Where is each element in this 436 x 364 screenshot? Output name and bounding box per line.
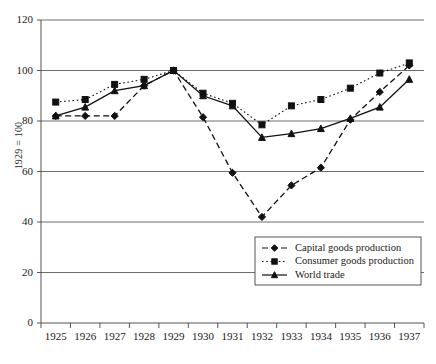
data-point-triangle [82,104,89,111]
x-tick-label: 1928 [133,330,156,342]
x-tick-label: 1935 [339,330,362,342]
chart-legend: Capital goods productionConsumer goods p… [255,237,421,285]
x-tick-label: 1930 [192,330,215,342]
series-1 [52,62,413,221]
x-tick-label: 1937 [398,330,421,342]
legend-label: Consumer goods production [295,255,415,266]
x-tick-label: 1936 [369,330,392,342]
y-tick-label: 80 [22,114,34,126]
series-3 [52,67,412,141]
y-tick-label: 100 [17,64,34,76]
data-point-square [347,85,353,91]
data-point-square [53,99,59,105]
y-tick-label: 20 [22,266,34,278]
data-point-diamond [229,169,236,176]
legend-label: World trade [295,269,345,280]
x-tick-label: 1934 [310,330,333,342]
data-point-square [288,103,294,109]
x-tick-label: 1927 [104,330,127,342]
data-point-square [259,122,265,128]
data-point-diamond [82,112,89,119]
legend-label: Capital goods production [295,242,402,253]
y-tick-label: 120 [17,13,34,25]
chart-figure: 1929 = 100 02040608010012019251926192719… [0,0,436,364]
x-tick-label: 1929 [163,330,186,342]
data-point-square [318,97,324,103]
data-point-square [272,259,277,264]
chart-canvas: 0204060801001201925192619271928192919301… [0,0,436,364]
x-tick-label: 1925 [45,330,68,342]
x-tick-label: 1931 [222,330,244,342]
data-point-square [377,70,383,76]
x-tick-label: 1933 [280,330,303,342]
x-tick-label: 1932 [251,330,273,342]
y-tick-label: 40 [22,215,34,227]
data-point-square [406,60,412,66]
series-line [56,65,410,217]
y-tick-label: 0 [28,316,34,328]
data-point-diamond [317,164,324,171]
data-point-triangle [406,76,413,83]
data-point-diamond [199,114,206,121]
data-point-square [82,97,88,103]
x-tick-label: 1926 [74,330,97,342]
y-tick-label: 60 [22,165,34,177]
